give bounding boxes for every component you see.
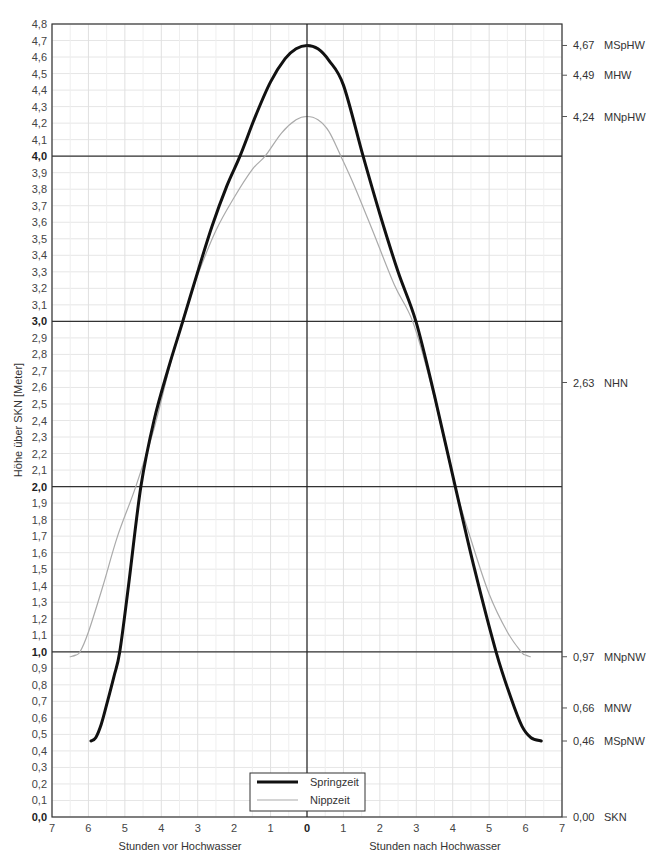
y-tick-label: 4,0 bbox=[32, 150, 47, 162]
y-tick-label: 4,6 bbox=[32, 51, 47, 63]
y-tick-label: 2,6 bbox=[32, 381, 47, 393]
legend: Springzeit Nippzeit bbox=[250, 773, 365, 811]
reference-value: 0,66 bbox=[573, 702, 594, 714]
x-tick-label: 2 bbox=[377, 822, 383, 834]
x-tick-label: 4 bbox=[450, 822, 456, 834]
y-axis-tick-labels: 0,00,10,20,30,40,50,60,70,80,91,01,11,21… bbox=[32, 18, 47, 823]
y-tick-label: 4,8 bbox=[32, 18, 47, 30]
y-tick-label: 0,6 bbox=[32, 712, 47, 724]
x-tick-label: 6 bbox=[523, 822, 529, 834]
y-tick-label: 1,1 bbox=[32, 629, 47, 641]
x-tick-label: 6 bbox=[85, 822, 91, 834]
y-tick-label: 3,4 bbox=[32, 249, 47, 261]
y-tick-label: 4,4 bbox=[32, 84, 47, 96]
y-tick-label: 1,2 bbox=[32, 613, 47, 625]
x-tick-label: 7 bbox=[559, 822, 565, 834]
y-tick-label: 3,8 bbox=[32, 183, 47, 195]
y-tick-label: 0,7 bbox=[32, 695, 47, 707]
y-tick-label: 3,2 bbox=[32, 282, 47, 294]
y-tick-label: 3,6 bbox=[32, 216, 47, 228]
y-tick-label: 3,5 bbox=[32, 233, 47, 245]
y-axis-title: Höhe über SKN [Meter] bbox=[12, 363, 24, 477]
reference-value: 0,97 bbox=[573, 651, 594, 663]
y-tick-label: 4,3 bbox=[32, 101, 47, 113]
reference-name: MSpNW bbox=[604, 735, 646, 747]
x-tick-label: 2 bbox=[231, 822, 237, 834]
reference-name: MSpHW bbox=[604, 39, 646, 51]
y-tick-label: 2,3 bbox=[32, 431, 47, 443]
reference-value: 2,63 bbox=[573, 377, 594, 389]
y-tick-label: 3,3 bbox=[32, 266, 47, 278]
y-tick-label: 0,4 bbox=[32, 745, 47, 757]
y-tick-label: 0,2 bbox=[32, 778, 47, 790]
y-tick-label: 2,4 bbox=[32, 415, 47, 427]
reference-value: 0,46 bbox=[573, 735, 594, 747]
x-tick-label: 5 bbox=[486, 822, 492, 834]
x-tick-label: 3 bbox=[195, 822, 201, 834]
x-tick-label: 4 bbox=[158, 822, 164, 834]
y-tick-label: 3,9 bbox=[32, 167, 47, 179]
reference-name: SKN bbox=[604, 811, 627, 823]
tide-chart: 0,00,10,20,30,40,50,60,70,80,91,01,11,21… bbox=[0, 0, 661, 866]
x-tick-label: 7 bbox=[49, 822, 55, 834]
x-axis-tick-labels: 765432101234567 bbox=[49, 822, 565, 834]
y-tick-label: 1,8 bbox=[32, 514, 47, 526]
y-tick-label: 2,2 bbox=[32, 448, 47, 460]
y-tick-label: 1,0 bbox=[32, 646, 47, 658]
y-tick-label: 2,8 bbox=[32, 348, 47, 360]
x-tick-label: 1 bbox=[268, 822, 274, 834]
y-tick-label: 3,0 bbox=[32, 315, 47, 327]
x-axis-title-before: Stunden vor Hochwasser bbox=[119, 840, 242, 852]
y-tick-label: 0,9 bbox=[32, 662, 47, 674]
x-axis-title-after: Stunden nach Hochwasser bbox=[369, 840, 501, 852]
x-tick-label: 1 bbox=[340, 822, 346, 834]
legend-label-nippzeit: Nippzeit bbox=[310, 794, 350, 806]
y-tick-label: 1,7 bbox=[32, 530, 47, 542]
y-tick-label: 2,0 bbox=[32, 481, 47, 493]
y-tick-label: 2,7 bbox=[32, 365, 47, 377]
reference-value: 4,24 bbox=[573, 111, 594, 123]
series-line-springzeit bbox=[91, 45, 541, 741]
x-tick-label: 0 bbox=[304, 822, 310, 834]
right-axis-reference-labels: 4,67MSpHW4,49MHW4,24MNpHW2,63NHN0,97MNpN… bbox=[562, 39, 646, 823]
y-tick-label: 1,5 bbox=[32, 563, 47, 575]
reference-value: 4,67 bbox=[573, 39, 594, 51]
y-tick-label: 0,0 bbox=[32, 811, 47, 823]
reference-name: MNW bbox=[604, 702, 632, 714]
legend-label-springzeit: Springzeit bbox=[310, 776, 359, 788]
x-tick-label: 3 bbox=[413, 822, 419, 834]
y-tick-label: 4,5 bbox=[32, 68, 47, 80]
y-tick-label: 1,9 bbox=[32, 497, 47, 509]
y-tick-label: 3,1 bbox=[32, 299, 47, 311]
y-tick-label: 2,5 bbox=[32, 398, 47, 410]
y-tick-label: 2,9 bbox=[32, 332, 47, 344]
reference-name: MNpNW bbox=[604, 651, 646, 663]
y-tick-label: 4,7 bbox=[32, 35, 47, 47]
y-tick-label: 0,3 bbox=[32, 761, 47, 773]
y-tick-label: 0,8 bbox=[32, 679, 47, 691]
y-tick-label: 0,1 bbox=[32, 794, 47, 806]
y-tick-label: 1,6 bbox=[32, 547, 47, 559]
reference-value: 4,49 bbox=[573, 69, 594, 81]
y-tick-label: 0,5 bbox=[32, 728, 47, 740]
y-tick-label: 2,1 bbox=[32, 464, 47, 476]
y-tick-label: 1,4 bbox=[32, 580, 47, 592]
x-tick-label: 5 bbox=[122, 822, 128, 834]
reference-value: 0,00 bbox=[573, 811, 594, 823]
y-tick-label: 4,2 bbox=[32, 117, 47, 129]
reference-name: NHN bbox=[604, 377, 628, 389]
y-tick-label: 3,7 bbox=[32, 200, 47, 212]
y-tick-label: 4,1 bbox=[32, 134, 47, 146]
series-line-nippzeit bbox=[70, 117, 530, 657]
reference-name: MNpHW bbox=[604, 111, 646, 123]
y-tick-label: 1,3 bbox=[32, 596, 47, 608]
reference-name: MHW bbox=[604, 69, 632, 81]
